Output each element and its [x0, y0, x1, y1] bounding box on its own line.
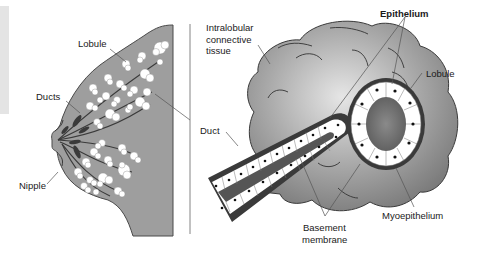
label-intralobular-1: Intralobular [206, 22, 254, 33]
label-duct: Duct [200, 125, 220, 136]
label-intralobular-2: connective [206, 34, 251, 45]
lobule-cross-section [347, 78, 425, 170]
label-nipple: Nipple [19, 180, 46, 191]
breast-silhouette [52, 25, 173, 236]
label-ducts: Ducts [36, 91, 60, 102]
label-intralobular-3: tissue [206, 45, 231, 56]
label-lobule-right: Lobule [426, 68, 455, 79]
label-myoepithelium: Myoepithelium [382, 210, 443, 221]
label-epithelium: Epithelium [380, 8, 429, 19]
diagram-canvas: Lobule Ducts Nipple Intralobular connect… [0, 0, 477, 254]
label-basement-1: Basement [303, 222, 346, 233]
label-lobule-left: Lobule [78, 38, 107, 49]
label-basement-2: membrane [302, 234, 347, 245]
